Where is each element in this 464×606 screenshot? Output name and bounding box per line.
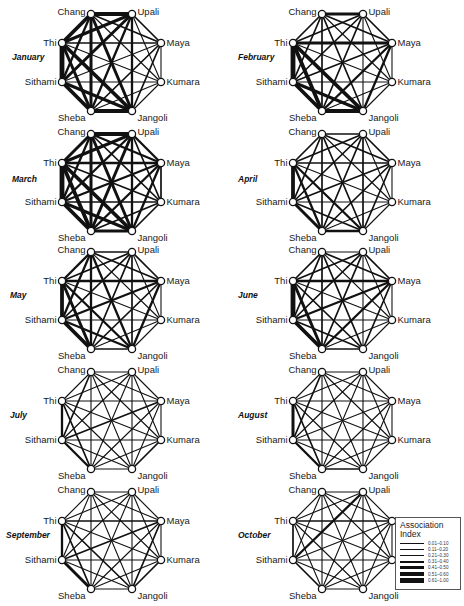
node-label: Jangoli xyxy=(369,232,399,243)
node-sheba xyxy=(87,107,94,114)
month-label: May xyxy=(10,290,28,300)
node-sheba xyxy=(318,465,325,472)
node-label: Thi xyxy=(274,275,287,286)
node-thi xyxy=(289,159,296,166)
node-label: Thi xyxy=(43,275,56,286)
node-jangoli xyxy=(359,585,366,592)
association-edge xyxy=(132,492,161,521)
node-chang xyxy=(87,488,94,495)
node-chang xyxy=(87,10,94,17)
node-maya xyxy=(388,397,395,404)
node-label: Jangoli xyxy=(369,590,399,601)
association-edge xyxy=(62,43,132,111)
association-edge xyxy=(363,134,392,163)
association-edge xyxy=(91,521,161,589)
node-jangoli xyxy=(359,345,366,352)
association-edge xyxy=(293,372,322,401)
association-network-figure: ChangUpaliMayaKumaraJangoliShebaSithamiT… xyxy=(0,0,464,606)
node-label: Chang xyxy=(58,484,86,495)
network-panel-june: ChangUpaliMayaKumaraJangoliShebaSithamiT… xyxy=(238,244,431,361)
association-edge xyxy=(363,14,392,43)
node-upali xyxy=(128,368,135,375)
node-label: Sithami xyxy=(25,434,57,445)
legend-item-label: 0.61–1.00 xyxy=(428,578,448,583)
node-sithami xyxy=(289,78,296,85)
node-label: Chang xyxy=(289,484,317,495)
node-thi xyxy=(289,277,296,284)
node-sheba xyxy=(87,585,94,592)
month-label: March xyxy=(12,174,37,184)
node-label: Sheba xyxy=(58,590,86,601)
legend-line-swatch xyxy=(400,549,424,550)
node-kumara xyxy=(157,78,164,85)
association-edge xyxy=(322,163,392,231)
month-label: April xyxy=(237,174,258,184)
node-chang xyxy=(87,130,94,137)
node-label: Chang xyxy=(289,244,317,255)
node-label: Kumara xyxy=(167,76,201,87)
node-label: Upali xyxy=(369,244,391,255)
node-upali xyxy=(128,130,135,137)
node-label: Kumara xyxy=(398,196,432,207)
node-sithami xyxy=(289,316,296,323)
association-edge xyxy=(62,440,91,469)
association-edge xyxy=(322,492,392,560)
month-label: August xyxy=(237,410,268,420)
node-label: Thi xyxy=(274,37,287,48)
node-label: Maya xyxy=(398,275,422,286)
association-edge xyxy=(293,252,322,281)
month-label: February xyxy=(238,52,276,62)
month-label: January xyxy=(12,52,46,62)
association-edge xyxy=(363,252,392,281)
network-panel-march: ChangUpaliMayaKumaraJangoliShebaSithamiT… xyxy=(12,126,200,243)
association-edge xyxy=(132,82,161,111)
node-label: Thi xyxy=(43,157,56,168)
node-kumara xyxy=(388,78,395,85)
node-label: Thi xyxy=(274,157,287,168)
node-label: Sheba xyxy=(289,470,317,481)
node-thi xyxy=(289,517,296,524)
node-chang xyxy=(87,368,94,375)
node-label: Sithami xyxy=(256,314,288,325)
node-label: Maya xyxy=(167,37,191,48)
node-upali xyxy=(359,368,366,375)
node-kumara xyxy=(157,436,164,443)
node-label: Sithami xyxy=(256,196,288,207)
legend-line-swatch xyxy=(400,572,424,576)
association-edge xyxy=(322,43,392,111)
node-chang xyxy=(318,248,325,255)
node-thi xyxy=(58,277,65,284)
node-label: Chang xyxy=(289,364,317,375)
node-label: Jangoli xyxy=(138,232,168,243)
association-edge xyxy=(62,560,91,589)
node-label: Jangoli xyxy=(138,590,168,601)
node-maya xyxy=(157,517,164,524)
node-sheba xyxy=(87,465,94,472)
node-label: Upali xyxy=(369,484,391,495)
node-thi xyxy=(289,397,296,404)
association-edge xyxy=(62,492,132,560)
association-edge xyxy=(293,134,322,163)
node-label: Sithami xyxy=(25,554,57,565)
node-chang xyxy=(87,248,94,255)
network-panel-september: ChangUpaliMayaKumaraJangoliShebaSithamiT… xyxy=(6,484,200,601)
association-edge xyxy=(322,281,392,349)
association-edge xyxy=(293,492,322,521)
node-label: Jangoli xyxy=(138,350,168,361)
node-jangoli xyxy=(359,227,366,234)
node-label: Jangoli xyxy=(138,470,168,481)
association-edge xyxy=(322,372,392,440)
node-sheba xyxy=(318,107,325,114)
association-edge xyxy=(132,560,161,589)
node-kumara xyxy=(157,316,164,323)
association-edge xyxy=(62,14,132,82)
node-upali xyxy=(128,488,135,495)
association-edge xyxy=(91,43,161,111)
network-panel-may: ChangUpaliMayaKumaraJangoliShebaSithamiT… xyxy=(10,244,200,361)
association-edge xyxy=(62,492,91,521)
association-edge xyxy=(132,202,161,231)
node-kumara xyxy=(388,316,395,323)
node-label: Sheba xyxy=(289,590,317,601)
node-label: Thi xyxy=(274,395,287,406)
association-edge xyxy=(62,372,91,401)
